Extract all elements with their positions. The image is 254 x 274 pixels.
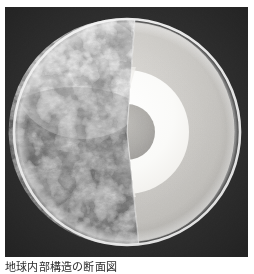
earth-cutaway-illustration [5,7,248,257]
image-plate [5,7,248,257]
earth-cutaway-figure: 地球内部構造の断面図 [0,0,254,274]
figure-caption: 地球内部構造の断面図 [5,261,248,274]
figure-caption-text: 地球内部構造の断面図 [5,262,248,274]
